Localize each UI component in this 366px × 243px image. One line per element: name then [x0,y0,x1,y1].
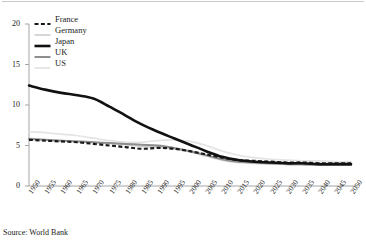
legend-swatch-japan-icon [34,37,51,47]
legend-item-france: France [34,14,87,25]
legend-label: US [55,59,66,68]
legend-label: UK [55,48,67,57]
legend-label: Germany [55,26,87,35]
legend-swatch-uk-icon [34,48,51,58]
y-tick-label: 10 [4,101,20,109]
legend-item-us: US [34,58,87,69]
legend-swatch-germany-icon [34,26,51,36]
source-note: Source: World Bank [3,228,68,237]
legend-item-uk: UK [34,47,87,58]
chart-figure: 05101520 1950195519601965197019751980198… [0,0,366,243]
y-tick-label: 0 [4,182,20,190]
legend-label: Japan [55,37,74,46]
legend-swatch-france-icon [34,15,51,25]
legend-item-germany: Germany [34,25,87,36]
legend-item-japan: Japan [34,36,87,47]
chart-legend: FranceGermanyJapanUKUS [34,14,87,69]
y-tick-label: 15 [4,61,20,69]
legend-label: France [55,15,78,24]
y-tick-label: 5 [4,142,20,150]
y-tick-label: 20 [4,20,20,28]
series-line-us [29,132,351,162]
legend-swatch-us-icon [34,59,51,69]
